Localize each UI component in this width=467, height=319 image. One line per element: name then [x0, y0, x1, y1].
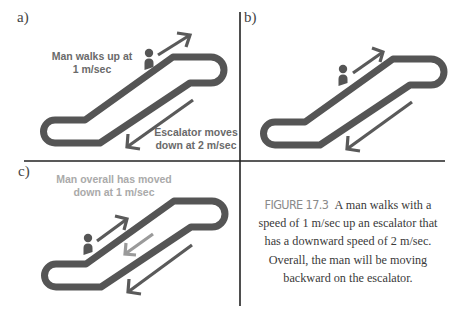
- figure-number: FIGURE 17.3: [265, 197, 329, 212]
- arrow-up-icon: [158, 33, 190, 55]
- note-man-overall: Man overall has moved: [56, 173, 172, 185]
- escalator-icon: [45, 201, 226, 287]
- panel-b-label: b): [244, 9, 257, 26]
- note-man-walks: Man walks up at: [52, 50, 133, 62]
- note-escalator-speed: down at 2 m/sec: [155, 139, 236, 151]
- note-man-speed: 1 m/sec: [73, 63, 112, 75]
- man-icon: [339, 65, 348, 86]
- note-net-speed: down at 1 m/sec: [73, 186, 154, 198]
- panel-a-label: a): [17, 9, 29, 26]
- man-icon: [84, 234, 93, 255]
- panel-c: c) Man overall has moved down at 1 m/sec: [18, 163, 225, 294]
- panel-b: b): [244, 9, 444, 151]
- panel-c-label: c): [18, 163, 30, 180]
- arrow-down-icon: [128, 245, 192, 294]
- figure-caption: FIGURE 17.3 A man walks with a speed of …: [252, 196, 444, 287]
- note-escalator-moves: Escalator moves: [154, 126, 238, 138]
- panel-a: a) Man walks up at 1 m/sec Escalator mov…: [17, 9, 238, 151]
- man-icon: [145, 49, 154, 70]
